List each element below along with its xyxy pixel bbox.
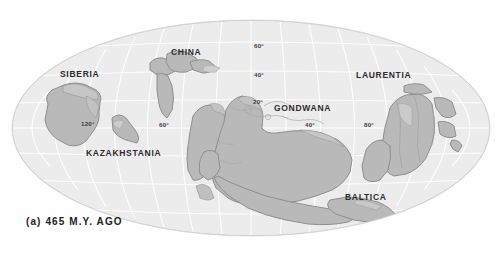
figure-caption: (a) 465 M.Y. AGO	[26, 216, 123, 227]
paleogeographic-map-figure: SIBERIA CHINA KAZAKHSTANIA GONDWANA LAUR…	[0, 0, 504, 260]
